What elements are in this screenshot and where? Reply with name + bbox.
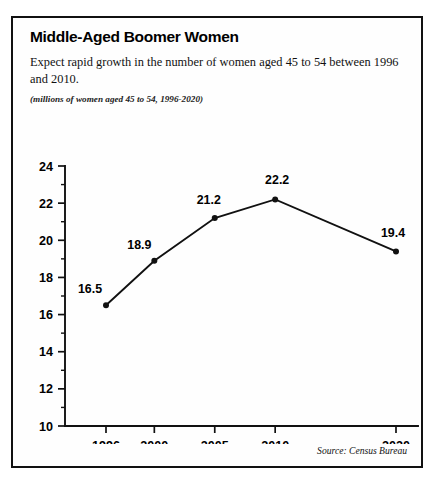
data-series-line <box>106 199 396 305</box>
y-axis-tick-label: 14 <box>39 345 53 359</box>
data-point-marker <box>212 215 218 221</box>
y-axis-tick-label: 24 <box>39 160 53 174</box>
x-axis-tick-label: 2000 <box>140 439 168 444</box>
y-axis-tick-label: 22 <box>39 197 53 211</box>
data-point-marker <box>272 196 278 202</box>
data-point-marker <box>393 248 399 254</box>
line-chart: 10121416182022241996200020052010202016.5… <box>13 114 421 444</box>
data-point-label: 21.2 <box>197 193 221 207</box>
data-point-marker <box>151 258 157 264</box>
y-axis-tick-label: 20 <box>39 234 53 248</box>
chart-subtitle: Expect rapid growth in the number of wom… <box>30 54 410 87</box>
figure-panel: Middle-Aged Boomer Women Expect rapid gr… <box>11 16 423 468</box>
data-point-label: 16.5 <box>78 282 102 296</box>
data-point-label: 19.4 <box>381 226 405 240</box>
x-axis-tick-label: 2010 <box>261 439 289 444</box>
y-axis-tick-label: 12 <box>39 382 53 396</box>
chart-source: Source: Census Bureau <box>317 445 407 456</box>
chart-units-note: (millions of women aged 45 to 54, 1996-2… <box>30 94 410 104</box>
data-point-marker <box>103 302 109 308</box>
y-axis-tick-label: 10 <box>39 420 53 434</box>
x-axis-tick-label: 1996 <box>92 439 120 444</box>
data-point-label: 18.9 <box>127 238 151 252</box>
chart-title: Middle-Aged Boomer Women <box>30 28 239 46</box>
x-axis-tick-label: 2020 <box>382 439 410 444</box>
y-axis-tick-label: 18 <box>39 271 53 285</box>
x-axis-tick-label: 2005 <box>201 439 229 444</box>
data-point-label: 22.2 <box>265 173 289 187</box>
y-axis-tick-label: 16 <box>39 308 53 322</box>
